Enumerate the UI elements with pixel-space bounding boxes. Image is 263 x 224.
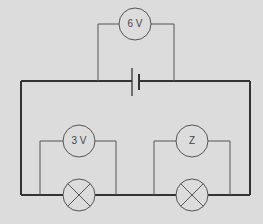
circuit-svg (0, 0, 263, 224)
battery-icon (132, 68, 139, 96)
lamp2-icon (176, 179, 208, 211)
voltmeter-supply-label: 6 V (119, 16, 151, 32)
voltmeter-lamp2-label: Z (176, 133, 208, 149)
voltmeter-lamp1-label: 3 V (63, 133, 95, 149)
lamp1-icon (63, 179, 95, 211)
circuit-diagram: 6 V 3 V Z (0, 0, 263, 224)
main-loop (21, 81, 250, 195)
